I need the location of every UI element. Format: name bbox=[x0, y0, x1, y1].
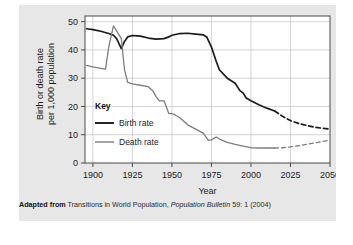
x-tick-label: 2000 bbox=[241, 170, 261, 180]
x-tick-label: 1900 bbox=[83, 170, 103, 180]
legend-label-birth-rate: Birth rate bbox=[119, 118, 154, 128]
caption-suffix: 59: 1 (2004) bbox=[232, 200, 271, 209]
caption-italic-title: Population Bulletin bbox=[171, 200, 231, 209]
caption-prefix: Adapted from bbox=[19, 200, 66, 209]
y-tick-label: 40 bbox=[68, 45, 78, 55]
y-tick-label: 20 bbox=[68, 102, 78, 112]
legend-title: Key bbox=[95, 101, 111, 111]
x-tick-label: 2025 bbox=[280, 170, 300, 180]
x-tick-label: 1975 bbox=[201, 170, 221, 180]
x-tick-label: 1950 bbox=[162, 170, 182, 180]
figure-caption: Adapted from Transitions in World Popula… bbox=[19, 200, 339, 209]
line-chart-svg: 190019251950197520002025205001020304050Y… bbox=[19, 5, 336, 221]
y-tick-label: 0 bbox=[73, 158, 78, 168]
figure-panel: Birth or death rate per 1,000 population… bbox=[19, 5, 336, 221]
x-tick-label: 2050 bbox=[320, 170, 336, 180]
caption-source: Transitions in World Population, bbox=[68, 200, 169, 209]
y-tick-label: 50 bbox=[68, 17, 78, 27]
chart-plot: 190019251950197520002025205001020304050Y… bbox=[19, 5, 336, 221]
x-tick-label: 1925 bbox=[122, 170, 142, 180]
y-tick-label: 10 bbox=[68, 130, 78, 140]
legend-label-death-rate: Death rate bbox=[119, 137, 159, 147]
y-tick-label: 30 bbox=[68, 73, 78, 83]
x-axis-title: Year bbox=[198, 186, 216, 196]
